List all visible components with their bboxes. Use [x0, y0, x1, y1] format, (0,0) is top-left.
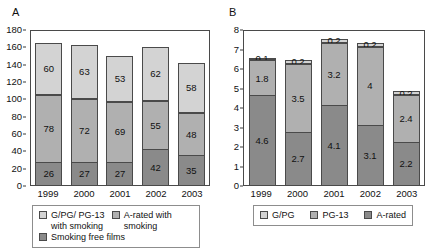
y-tick-mark	[23, 82, 26, 83]
y-tick-label: 2	[234, 142, 239, 152]
bar-segment-value: 27	[79, 169, 90, 179]
legend-item-pg13: PG-13	[310, 210, 348, 221]
legend-swatch-light-icon	[39, 211, 47, 219]
x-tick-label: 2003	[393, 189, 420, 199]
panel-b-y-axis: 012345678	[217, 30, 243, 186]
bar-segment: 58	[178, 63, 205, 113]
y-tick-label: 20	[11, 164, 22, 174]
bar-segment: 42	[142, 149, 169, 185]
bar-segment: 69	[106, 102, 133, 162]
bar-1999: 607826	[35, 43, 62, 185]
y-tick-label: 100	[6, 95, 22, 105]
figure-container: A 020406080100120140160180 6078266372275…	[0, 0, 435, 251]
y-tick-mark	[23, 99, 26, 100]
panel-a-x-axis: 19992000200120022003	[30, 189, 210, 199]
legend-item-smoking-free-films: Smoking free films	[39, 232, 125, 243]
legend-label-smoking-free-films: Smoking free films	[51, 232, 125, 243]
x-tick-label: 1999	[248, 189, 275, 199]
bar-2000: 637227	[71, 45, 98, 185]
panel-b-x-axis: 19992000200120022003	[243, 189, 425, 199]
bar-segment: 2.7	[285, 132, 312, 185]
bar-segment-value: 4	[367, 81, 372, 91]
bar-segment-value: 78	[44, 124, 55, 134]
bar-segment-value: 58	[186, 83, 197, 93]
legend-label-pg13: PG-13	[322, 210, 348, 221]
x-tick-label: 2000	[284, 189, 311, 199]
x-tick-label: 2001	[107, 189, 134, 199]
x-tick-label: 2002	[357, 189, 384, 199]
panel-a-letter: A	[12, 6, 20, 18]
bar-segment-value: 3.2	[327, 70, 340, 80]
y-tick-mark	[23, 168, 26, 169]
bar-2002: 625542	[142, 47, 169, 185]
y-tick-mark	[23, 151, 26, 152]
bar-segment: 1.8	[249, 60, 276, 95]
x-tick-label: 2003	[179, 189, 206, 199]
y-tick-label: 8	[234, 25, 239, 35]
bar-segment-value: 72	[79, 126, 90, 136]
bar-2000: 0.23.52.7	[285, 60, 312, 185]
panel-a-y-axis: 020406080100120140160180	[0, 30, 26, 186]
panel-b-letter: B	[229, 6, 237, 18]
bar-segment-value: 69	[115, 127, 126, 137]
legend-item-a-rated: A-rated	[364, 210, 406, 221]
panel-a-plot-area: 607826637227536927625542584835	[30, 30, 210, 186]
y-tick-label: 7	[234, 45, 239, 55]
bar-segment-value: 53	[115, 74, 126, 84]
bar-segment-value: 26	[44, 169, 55, 179]
legend-swatch-dark-icon	[364, 211, 372, 219]
legend-label-a-rated: A-rated	[376, 210, 406, 221]
bar-1999: 0.11.84.6	[249, 58, 276, 185]
bar-segment-value: 62	[150, 69, 161, 79]
legend-swatch-light-icon	[260, 211, 268, 219]
legend-swatch-medium-icon	[310, 211, 318, 219]
bar-segment: 78	[35, 95, 62, 163]
legend-label-a-rated-smoking: A-rated with smoking	[124, 210, 193, 231]
y-tick-label: 5	[234, 84, 239, 94]
panel-a-legend: G/PG/ PG-13 with smoking A-rated with sm…	[32, 205, 200, 248]
bar-segment: 2.2	[393, 142, 420, 185]
bar-segment-value: 60	[44, 64, 55, 74]
y-tick-label: 160	[6, 43, 22, 53]
bar-segment: 62	[142, 47, 169, 101]
bar-segment: 48	[178, 113, 205, 155]
panel-b-legend: G/PG PG-13 A-rated	[253, 205, 413, 226]
bar-segment-value: 55	[150, 121, 161, 131]
bar-segment: 27	[71, 162, 98, 185]
bar-segment: 4.1	[321, 105, 348, 185]
bar-segment-value: 3.1	[363, 151, 376, 161]
panel-b: B 012345678 0.11.84.60.23.52.70.23.24.10…	[217, 0, 434, 251]
y-tick-mark	[23, 30, 26, 31]
legend-label-gpg-pg13-smoking: G/PG/ PG-13 with smoking	[51, 210, 112, 231]
bar-segment: 4	[357, 47, 384, 125]
y-tick-mark	[23, 47, 26, 48]
panel-a: A 020406080100120140160180 6078266372275…	[0, 0, 217, 251]
y-tick-label: 0	[17, 181, 22, 191]
panel-a-bars: 607826637227536927625542584835	[31, 31, 209, 185]
y-tick-label: 3	[234, 123, 239, 133]
legend-label-gpg: G/PG	[272, 210, 295, 221]
bar-segment-value: 63	[79, 67, 90, 77]
y-tick-label: 6	[234, 64, 239, 74]
bar-segment: 72	[71, 99, 98, 161]
legend-item-a-rated-smoking: A-rated with smoking	[112, 210, 193, 231]
x-tick-label: 2001	[320, 189, 347, 199]
bar-segment: 3.1	[357, 125, 384, 185]
bar-segment-value: 2.7	[291, 154, 304, 164]
bar-2001: 0.23.24.1	[321, 39, 348, 185]
bar-segment: 3.5	[285, 64, 312, 132]
bar-segment: 60	[35, 43, 62, 95]
bar-segment: 63	[71, 45, 98, 100]
bar-segment-value: 27	[115, 169, 126, 179]
bar-segment: 2.4	[393, 95, 420, 142]
y-tick-label: 140	[6, 60, 22, 70]
x-tick-label: 2000	[71, 189, 98, 199]
y-tick-mark	[23, 186, 26, 187]
y-tick-mark	[23, 116, 26, 117]
x-tick-label: 1999	[35, 189, 62, 199]
x-tick-label: 2002	[143, 189, 170, 199]
legend-swatch-dark-icon	[39, 233, 47, 241]
bar-2003: 584835	[178, 63, 205, 185]
bar-segment-value: 4.6	[255, 136, 268, 146]
bar-segment: 26	[35, 162, 62, 185]
